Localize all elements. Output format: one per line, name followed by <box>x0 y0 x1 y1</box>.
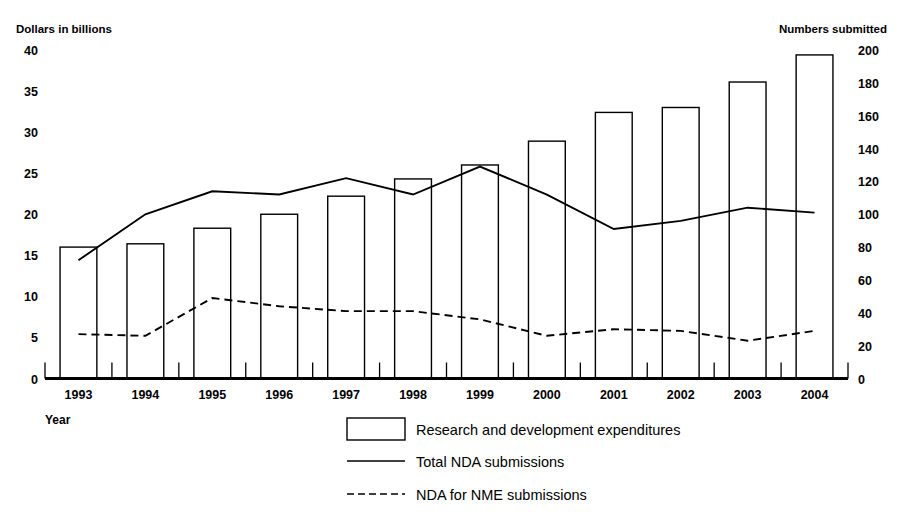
right-tick-label: 60 <box>858 274 872 288</box>
right-tick-label: 100 <box>858 208 879 222</box>
right-axis-title: Numbers submitted <box>779 23 887 35</box>
x-axis-year-label: 1996 <box>265 388 293 402</box>
chart-container: Dollars in billions Numbers submitted 05… <box>0 0 903 512</box>
bar <box>796 55 833 379</box>
x-axis-year-label: 2002 <box>667 388 695 402</box>
right-tick-label: 40 <box>858 307 872 321</box>
x-axis-year-label: 1993 <box>65 388 93 402</box>
bar <box>528 141 565 378</box>
x-axis-ticks <box>45 363 848 379</box>
left-tick-label: 10 <box>24 290 38 304</box>
bar <box>194 228 231 378</box>
bar <box>328 196 365 378</box>
x-axis-year-labels: 1993199419951996199719981999200020012002… <box>65 388 829 402</box>
legend-label: NDA for NME submissions <box>416 487 587 503</box>
bar <box>261 214 298 378</box>
left-tick-label: 0 <box>31 373 38 387</box>
x-axis-year-label: 1997 <box>332 388 360 402</box>
left-axis-tick-labels: 0510152025303540 <box>24 44 38 387</box>
right-tick-label: 80 <box>858 241 872 255</box>
bar <box>462 165 499 379</box>
legend: Research and development expenditures To… <box>347 418 680 503</box>
bar <box>729 82 766 378</box>
bar <box>395 179 432 379</box>
left-tick-label: 40 <box>24 44 38 58</box>
x-axis-year-label: 1995 <box>198 388 226 402</box>
x-axis-year-label: 2003 <box>734 388 762 402</box>
line-series-total-nda-submissions <box>78 167 814 261</box>
x-axis-year-label: 2000 <box>533 388 561 402</box>
right-tick-label: 20 <box>858 340 872 354</box>
x-axis-year-label: 1998 <box>399 388 427 402</box>
bar <box>127 244 164 379</box>
left-axis-title: Dollars in billions <box>16 23 112 35</box>
bar <box>595 112 632 378</box>
legend-item-research-and-development-expenditures: Research and development expenditures <box>347 418 680 440</box>
legend-label: Total NDA submissions <box>416 454 564 470</box>
right-tick-label: 120 <box>858 175 879 189</box>
left-tick-label: 25 <box>24 167 38 181</box>
x-axis-year-label: 1994 <box>131 388 159 402</box>
bar <box>662 107 699 378</box>
left-tick-label: 20 <box>24 208 38 222</box>
legend-item-nda-for-nme-submissions: NDA for NME submissions <box>347 487 587 503</box>
x-axis-year-label: 1999 <box>466 388 494 402</box>
left-tick-label: 15 <box>24 249 38 263</box>
line-series-nda-for-nme-submissions <box>78 298 814 341</box>
x-axis-caption: Year <box>45 413 71 427</box>
right-tick-label: 180 <box>858 77 879 91</box>
right-axis-tick-labels: 020406080100120140160180200 <box>858 44 879 387</box>
x-axis-year-label: 2004 <box>801 388 829 402</box>
box-outline-swatch-icon <box>347 418 405 440</box>
left-tick-label: 5 <box>31 331 38 345</box>
right-tick-label: 200 <box>858 44 879 58</box>
bar-series-research-and-development-expenditures <box>60 55 833 379</box>
combo-chart: Dollars in billions Numbers submitted 05… <box>0 0 903 512</box>
left-tick-label: 35 <box>24 85 38 99</box>
left-tick-label: 30 <box>24 126 38 140</box>
bar <box>60 247 97 378</box>
legend-item-total-nda-submissions: Total NDA submissions <box>347 454 564 470</box>
legend-label: Research and development expenditures <box>416 422 680 438</box>
x-axis-year-label: 2001 <box>600 388 628 402</box>
right-tick-label: 140 <box>858 143 879 157</box>
right-tick-label: 160 <box>858 110 879 124</box>
right-tick-label: 0 <box>858 373 865 387</box>
